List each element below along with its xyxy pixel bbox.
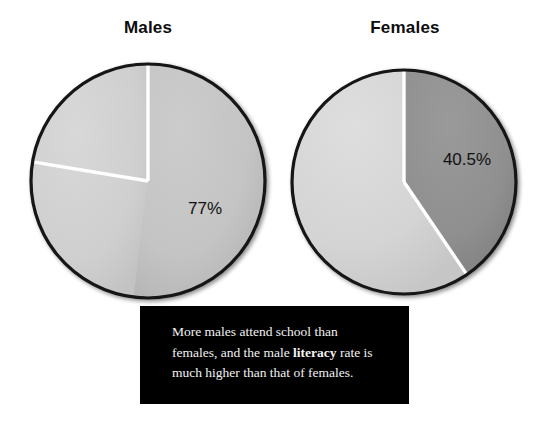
pie-chart-females — [292, 70, 516, 294]
pie-slice-females-literacy — [404, 70, 516, 275]
pie-slice-males-remainder — [31, 64, 148, 297]
caption-line-1: More males attend school than — [172, 324, 338, 339]
caption-line-3: much higher than that of females. — [172, 365, 353, 380]
caption-box: More males attend school thanfemales, an… — [140, 306, 409, 404]
pie-value-label-males: 77% — [165, 199, 245, 219]
pie-outline-males — [31, 64, 265, 298]
caption-line-2-post: rate is — [337, 345, 373, 360]
pie-outline-females — [292, 70, 516, 294]
pie-title-females: Females — [336, 18, 474, 38]
pie-title-males: Males — [88, 18, 208, 38]
caption-text: More males attend school thanfemales, an… — [172, 322, 389, 384]
pie-slice-males-literacy — [133, 64, 264, 298]
pie-divider-males-left — [33, 162, 148, 181]
caption-line-2-pre: females, and the male — [172, 345, 293, 360]
pie-value-label-females: 40.5% — [424, 150, 510, 170]
pie-slice-females-remainder — [292, 70, 467, 294]
caption-keyword-literacy: literacy — [293, 345, 336, 360]
figure-canvas: Males Females 77% 40.5% More males atten… — [0, 0, 546, 422]
pie-divider-females-diagonal — [404, 182, 467, 275]
pie-chart-males — [31, 64, 265, 298]
